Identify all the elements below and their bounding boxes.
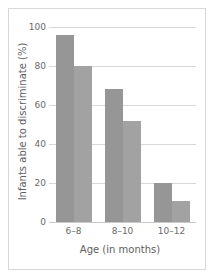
bar <box>172 201 190 222</box>
bar <box>154 183 172 222</box>
bar <box>74 66 92 222</box>
x-axis-title: Age (in months) <box>40 244 200 255</box>
chart-figure: 020406080100 6–88–1010–12 Age (in months… <box>0 0 216 280</box>
plot-area <box>49 27 196 222</box>
gridline <box>49 27 196 28</box>
bar <box>123 121 141 222</box>
bar <box>105 89 123 222</box>
x-tick-label: 6–8 <box>49 226 99 236</box>
x-tick-label: 8–10 <box>98 226 148 236</box>
axis-baseline <box>49 222 196 223</box>
y-axis-title: Infants able to discriminate (%) <box>17 22 28 222</box>
bar <box>56 35 74 222</box>
x-tick-label: 10–12 <box>147 226 197 236</box>
